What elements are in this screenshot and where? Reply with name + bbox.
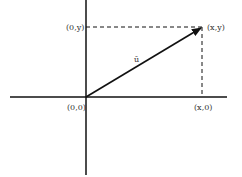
label-origin: (0,0) [67, 103, 86, 112]
vector-diagram: ū (0,y) (x,y) (0,0) (x,0) [0, 0, 242, 177]
vector-label: ū [134, 55, 139, 64]
vector-arrow [86, 28, 201, 97]
label-tip: (x,y) [207, 23, 225, 32]
label-y-projection: (0,y) [66, 23, 84, 32]
label-x-projection: (x,0) [194, 103, 212, 112]
